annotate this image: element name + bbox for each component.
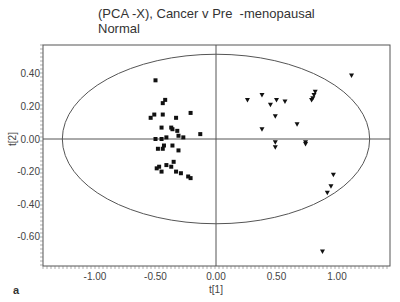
- square-marker: [174, 116, 178, 120]
- x-tick-label: -1.00: [84, 271, 107, 282]
- square-marker: [152, 113, 156, 117]
- square-marker: [176, 134, 180, 138]
- square-marker: [176, 148, 180, 152]
- square-marker: [161, 113, 165, 117]
- x-tick-label: 0.50: [267, 271, 287, 282]
- triangle-marker: [349, 73, 354, 78]
- square-marker: [170, 144, 174, 148]
- square-marker: [160, 126, 164, 130]
- square-marker: [149, 116, 153, 120]
- square-marker: [164, 135, 168, 139]
- x-tick-label: 1.00: [327, 271, 347, 282]
- triangle-marker: [273, 145, 278, 150]
- plot-frame: [43, 45, 390, 266]
- square-marker: [160, 170, 164, 174]
- triangle-marker: [320, 249, 325, 254]
- square-marker: [169, 165, 173, 169]
- square-marker: [157, 165, 161, 169]
- x-tick-label: 0.00: [206, 271, 226, 282]
- triangle-marker: [282, 100, 287, 105]
- square-marker: [181, 135, 185, 139]
- y-tick-label: 0.40: [21, 68, 41, 79]
- x-axis-label: t[1]: [209, 284, 223, 295]
- square-marker: [169, 126, 173, 130]
- square-marker: [162, 144, 166, 148]
- y-axis-label: t[2]: [7, 132, 18, 146]
- square-marker: [163, 98, 167, 102]
- triangle-marker: [245, 98, 250, 103]
- square-marker: [179, 171, 183, 175]
- square-marker: [154, 137, 158, 141]
- y-tick-label: -0.40: [17, 199, 40, 210]
- square-marker: [160, 137, 164, 141]
- triangle-marker: [295, 122, 300, 127]
- square-marker: [164, 163, 168, 167]
- triangle-marker: [273, 114, 278, 119]
- y-tick-label: -0.20: [17, 166, 40, 177]
- triangle-marker: [259, 127, 264, 132]
- triangle-marker: [325, 191, 330, 196]
- square-marker: [198, 132, 202, 136]
- y-tick-label: 0.20: [21, 101, 41, 112]
- square-marker: [172, 160, 176, 164]
- square-marker: [189, 111, 193, 115]
- triangle-marker: [273, 140, 278, 145]
- triangle-marker: [331, 173, 336, 178]
- square-marker: [175, 129, 179, 133]
- square-marker: [189, 176, 193, 180]
- triangle-marker: [259, 93, 264, 98]
- square-marker: [154, 78, 158, 82]
- square-marker: [174, 170, 178, 174]
- scatter-plot: -1.00-0.500.000.501.000.400.200.00-0.20-…: [0, 0, 400, 302]
- data-points: [149, 73, 354, 254]
- triangle-marker: [268, 103, 273, 108]
- square-marker: [156, 147, 160, 151]
- x-tick-label: -0.50: [144, 271, 167, 282]
- y-tick-label: -0.60: [17, 231, 40, 242]
- triangle-marker: [274, 98, 279, 103]
- y-tick-label: 0.00: [21, 134, 41, 145]
- triangle-marker: [328, 184, 333, 189]
